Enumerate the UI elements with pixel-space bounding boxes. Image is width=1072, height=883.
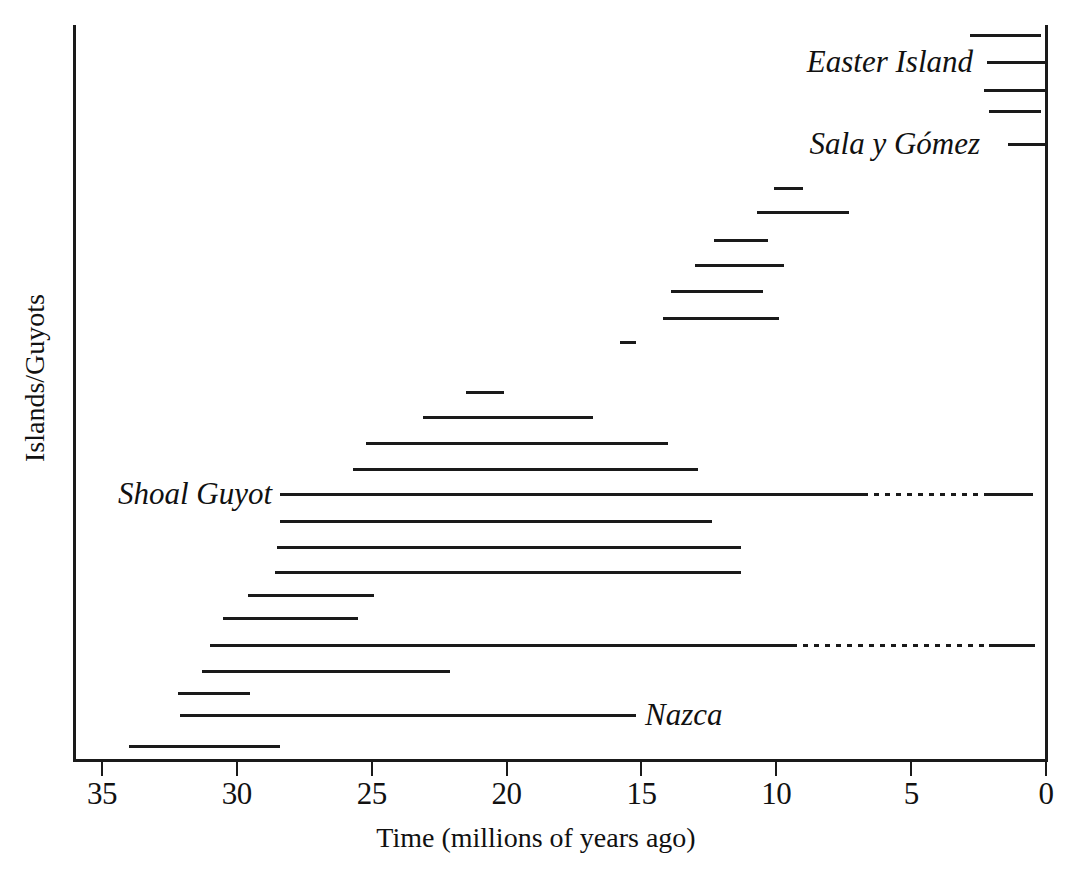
bar-26 (180, 714, 636, 717)
bar-24 (202, 670, 450, 673)
bar-25 (178, 692, 251, 695)
bar-17-solid-left (280, 493, 863, 496)
x-tick-10 (775, 762, 777, 776)
bar-18 (280, 520, 712, 523)
bar-23-solid-right (989, 644, 1035, 647)
bar-17-dotted (863, 493, 984, 496)
bar-14 (423, 416, 593, 419)
plot-label-nazca: Nazca (645, 697, 723, 733)
y-axis-line (73, 25, 76, 762)
bar-11 (663, 317, 779, 320)
bar-06 (774, 187, 804, 190)
bar-23-solid-left (210, 644, 793, 647)
plot-label-sala-y-g-mez: Sala y Gómez (810, 126, 980, 162)
x-tick-label-0: 0 (1039, 776, 1054, 812)
bar-16 (353, 468, 698, 471)
bar-13 (466, 391, 504, 394)
bar-03 (984, 89, 1046, 92)
x-tick-15 (640, 762, 642, 776)
bar-20 (275, 571, 742, 574)
x-tick-label-10: 10 (761, 776, 791, 812)
y-axis-title: Islands/Guyots (19, 248, 51, 508)
bar-21 (248, 594, 375, 597)
bar-05 (1008, 143, 1046, 146)
bar-02 (987, 61, 1046, 64)
bar-04 (989, 110, 1040, 113)
plot-label-shoal-guyot: Shoal Guyot (118, 476, 272, 512)
x-tick-25 (371, 762, 373, 776)
bar-27 (129, 745, 280, 748)
bar-17-solid-right (984, 493, 1033, 496)
bar-19 (277, 546, 741, 549)
bar-08 (714, 239, 768, 242)
x-axis-title: Time (millions of years ago) (0, 822, 1072, 854)
x-tick-0 (1045, 762, 1047, 776)
x-tick-20 (506, 762, 508, 776)
bar-23-dotted (792, 644, 989, 647)
x-tick-label-35: 35 (87, 776, 117, 812)
chart-container: 35302520151050 Easter IslandSala y Gómez… (0, 0, 1072, 883)
x-tick-35 (101, 762, 103, 776)
x-tick-label-20: 20 (492, 776, 522, 812)
x-tick-label-15: 15 (626, 776, 656, 812)
x-axis-line (73, 759, 1048, 762)
bar-12 (620, 341, 636, 344)
x-tick-label-5: 5 (904, 776, 919, 812)
right-axis-line (1045, 25, 1048, 762)
x-tick-5 (910, 762, 912, 776)
bar-10 (671, 290, 763, 293)
x-tick-30 (236, 762, 238, 776)
bar-22 (223, 617, 358, 620)
plot-label-easter-island: Easter Island (807, 44, 973, 80)
x-tick-label-25: 25 (357, 776, 387, 812)
bar-09 (695, 264, 784, 267)
x-tick-label-30: 30 (222, 776, 252, 812)
bar-07 (757, 211, 849, 214)
bar-01 (970, 34, 1040, 37)
bar-15 (366, 442, 668, 445)
